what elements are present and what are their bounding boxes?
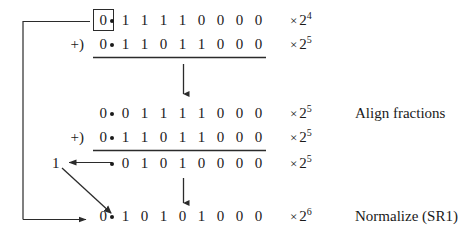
fraction-digit: 0 xyxy=(230,152,249,174)
fraction-digit: 0 xyxy=(154,152,173,174)
fraction-digit: 1 xyxy=(135,126,154,148)
exponent-power: 4 xyxy=(307,10,312,21)
times-symbol: × xyxy=(290,156,299,171)
fraction-digit: 1 xyxy=(135,33,154,55)
times-symbol: × xyxy=(290,130,299,145)
fraction-digit: 0 xyxy=(116,152,135,174)
fraction-digit: 1 xyxy=(173,102,192,124)
digit-group-sum: 0 1 0 1 0 0 0 0 xyxy=(95,152,268,174)
digit-group-normalized-result: 0 1 0 1 0 1 0 0 0 xyxy=(95,205,268,227)
leading-digit: 0 xyxy=(95,126,107,148)
times-symbol: × xyxy=(290,106,299,121)
fraction-digit: 1 xyxy=(192,102,211,124)
fraction-digit: 1 xyxy=(116,126,135,148)
row-operand-2: 0 1 1 0 1 1 0 0 0 xyxy=(95,33,268,55)
exponent-base: 2 xyxy=(299,105,307,121)
fraction-digit: 0 xyxy=(249,9,268,31)
exponent-power: 5 xyxy=(307,34,312,45)
fraction-digit: 1 xyxy=(173,9,192,31)
row-aligned-operand-2: 0 1 1 0 1 1 0 0 0 xyxy=(95,126,268,148)
fraction-digit: 1 xyxy=(192,33,211,55)
fraction-digit: 0 xyxy=(249,152,268,174)
note-normalize: Normalize (SR1) xyxy=(355,205,458,227)
fraction-digit: 0 xyxy=(154,126,173,148)
fraction-digit: 0 xyxy=(211,102,230,124)
times-symbol: × xyxy=(290,13,299,28)
fraction-digit: 0 xyxy=(230,33,249,55)
fraction-digit: 1 xyxy=(173,126,192,148)
fraction-digit: 1 xyxy=(116,205,135,227)
fraction-digit: 0 xyxy=(249,102,268,124)
fraction-digit: 1 xyxy=(154,102,173,124)
fraction-digit: 0 xyxy=(154,33,173,55)
fraction-digit: 0 xyxy=(230,102,249,124)
exponent-operand-1: ×24 xyxy=(290,9,312,32)
plus-operator-label-2: +) xyxy=(58,126,84,148)
fraction-digit: 0 xyxy=(230,126,249,148)
fraction-digit: 1 xyxy=(154,9,173,31)
exponent-power: 5 xyxy=(307,153,312,164)
exponent-base: 2 xyxy=(299,12,307,28)
floating-point-addition-figure: 0 1 1 1 1 0 0 0 0 ×24 +) 0 1 1 0 1 1 0 0… xyxy=(0,0,459,248)
digit-group-operand-2: 0 1 1 0 1 1 0 0 0 xyxy=(95,33,268,55)
exponent-aligned-operand-2: ×25 xyxy=(290,126,312,149)
exponent-base: 2 xyxy=(299,36,307,52)
carry-out-digit: 1 xyxy=(52,152,60,174)
fraction-digit: 1 xyxy=(173,33,192,55)
leading-digit: 0 xyxy=(95,205,107,227)
leading-digit: 0 xyxy=(95,9,107,31)
row-aligned-operand-1: 0 0 1 1 1 1 0 0 0 xyxy=(95,102,268,124)
plus-operator-label-1: +) xyxy=(58,33,84,55)
exponent-aligned-operand-1: ×25 xyxy=(290,102,312,125)
fraction-digit: 0 xyxy=(211,126,230,148)
times-symbol: × xyxy=(290,209,299,224)
fraction-digit: 0 xyxy=(230,205,249,227)
note-align-fractions: Align fractions xyxy=(355,102,445,124)
exponent-normalized-result: ×26 xyxy=(290,205,312,228)
fraction-digit: 1 xyxy=(135,9,154,31)
fraction-digit: 1 xyxy=(154,205,173,227)
fraction-digit: 1 xyxy=(116,9,135,31)
fraction-digit: 0 xyxy=(211,33,230,55)
fraction-digit: 1 xyxy=(173,152,192,174)
times-symbol: × xyxy=(290,37,299,52)
exponent-operand-2: ×25 xyxy=(290,33,312,56)
exponent-base: 2 xyxy=(299,155,307,171)
fraction-digit: 0 xyxy=(192,9,211,31)
exponent-power: 6 xyxy=(307,206,312,217)
digit-group-operand-1: 0 1 1 1 1 0 0 0 0 xyxy=(95,9,268,31)
fraction-digit: 0 xyxy=(173,205,192,227)
row-sum-with-carry: 0 1 0 1 0 0 0 0 xyxy=(95,152,268,174)
exponent-power: 5 xyxy=(307,103,312,114)
leading-digit: 0 xyxy=(95,33,107,55)
fraction-digit: 0 xyxy=(249,126,268,148)
digit-group-aligned-operand-2: 0 1 1 0 1 1 0 0 0 xyxy=(95,126,268,148)
fraction-digit: 1 xyxy=(192,205,211,227)
exponent-base: 2 xyxy=(299,208,307,224)
fraction-digit: 0 xyxy=(249,205,268,227)
fraction-digit: 0 xyxy=(211,205,230,227)
fraction-digit: 1 xyxy=(116,33,135,55)
exponent-power: 5 xyxy=(307,127,312,138)
fraction-digit: 0 xyxy=(135,205,154,227)
fraction-digit: 0 xyxy=(192,152,211,174)
row-normalized-result: 0 1 0 1 0 1 0 0 0 xyxy=(95,205,268,227)
fraction-digit: 0 xyxy=(116,102,135,124)
digit-group-aligned-operand-1: 0 0 1 1 1 1 0 0 0 xyxy=(95,102,268,124)
fraction-digit: 1 xyxy=(135,102,154,124)
fraction-digit: 0 xyxy=(211,152,230,174)
row-operand-1: 0 1 1 1 1 0 0 0 0 xyxy=(95,9,268,31)
fraction-digit: 1 xyxy=(135,152,154,174)
exponent-base: 2 xyxy=(299,129,307,145)
fraction-digit: 0 xyxy=(249,33,268,55)
fraction-digit: 1 xyxy=(192,126,211,148)
fraction-digit: 0 xyxy=(211,9,230,31)
fraction-digit: 0 xyxy=(230,9,249,31)
exponent-sum: ×25 xyxy=(290,152,312,175)
leading-digit: 0 xyxy=(95,102,107,124)
